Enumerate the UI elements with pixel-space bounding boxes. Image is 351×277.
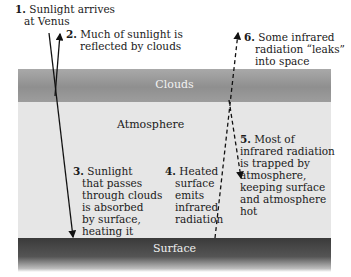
incoming-sunlight-arrow [49,33,73,237]
step-6-line: radiation “leaks” [244,43,345,55]
step-2-line: Much of sunlight is [80,28,182,40]
step-5-note: 5. Most of infrared radiation is trapped… [240,133,335,217]
step-2-line: reflected by clouds [66,40,183,52]
step-5-line: hot [240,205,335,217]
step-5-number: 5. [240,133,251,145]
step-4-line: infrared [165,201,223,213]
step-5-line: Most of [254,133,294,145]
step-3-line: by surface, [73,213,162,225]
step-6-note: 6. Some infrared radiation “leaks” into … [244,31,345,67]
step-6-line: into space [244,55,345,67]
step-3-line: Sunlight [87,165,132,177]
step-4-line: radiation [165,213,223,225]
step-1-line: at Venus [15,15,115,27]
step-4-line: Heated [179,165,218,177]
step-1-note: 1. Sunlight arrives at Venus [15,3,115,27]
step-5-line: infrared radiation [240,145,335,157]
step-3-line: heating it [73,225,162,237]
step-1-line: Sunlight arrives [29,3,115,15]
step-3-note: 3. Sunlight that passes through clouds i… [73,165,162,237]
step-4-number: 4. [165,165,176,177]
step-3-line: is absorbed [73,201,162,213]
step-5-line: atmosphere, [240,169,335,181]
step-4-line: emits [165,189,223,201]
step-2-note: 2. Much of sunlight is reflected by clou… [66,28,183,52]
step-1-number: 1. [15,3,26,15]
step-6-number: 6. [244,31,255,43]
step-4-note: 4. Heated surface emits infrared radiati… [165,165,223,225]
step-3-line: that passes [73,177,162,189]
step-3-line: through clouds [73,189,162,201]
step-6-line: Some infrared [258,31,334,43]
step-3-number: 3. [73,165,84,177]
step-5-line: is trapped by [240,157,335,169]
step-5-line: and atmosphere [240,193,335,205]
step-5-line: keeping surface [240,181,335,193]
reflected-sunlight-arrow [55,34,60,96]
step-4-line: surface [165,177,223,189]
step-2-number: 2. [66,28,77,40]
